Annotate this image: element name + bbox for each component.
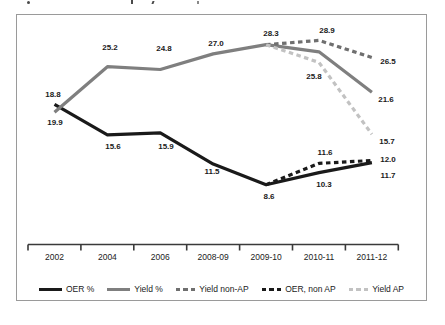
legend-label: Yield % [134, 285, 163, 294]
legend-item-yield-ap: Yield AP [349, 285, 404, 294]
data-label: 25.2 [102, 44, 118, 52]
x-axis-label: 2004 [98, 253, 117, 262]
data-label: 19.9 [47, 119, 63, 127]
legend-label: Yield non-AP [199, 285, 248, 294]
series-line-yield- [55, 45, 372, 113]
x-axis-label: 2011-12 [357, 253, 388, 262]
data-label: 18.8 [45, 91, 61, 99]
data-label: 15.6 [105, 143, 121, 151]
data-label: 15.9 [158, 143, 174, 151]
data-label: 11.6 [317, 149, 332, 157]
x-axis-label: 2002 [45, 253, 64, 262]
legend-marker [262, 288, 282, 292]
legend-item-yield-non-ap: Yield non-AP [176, 285, 249, 294]
x-axis-label: 2006 [151, 253, 170, 262]
x-axis-label: 2010-11 [304, 253, 335, 262]
legend-label: OER % [66, 285, 94, 294]
data-label: 8.6 [263, 193, 274, 201]
data-label: 21.6 [378, 96, 394, 104]
data-label: 28.9 [319, 27, 335, 35]
data-label: 15.7 [379, 138, 395, 146]
data-label: 10.3 [316, 181, 332, 189]
legend-marker [176, 288, 196, 292]
data-label: 12.0 [380, 156, 396, 164]
legend-label: OER, non AP [285, 285, 336, 294]
series-line-yield-ap [266, 45, 372, 135]
legend-marker [39, 288, 62, 292]
data-label: 28.3 [263, 30, 279, 38]
data-label: 26.5 [380, 58, 396, 66]
line-chart-plot [0, 0, 445, 325]
legend-item-yield-: Yield % [107, 285, 163, 294]
data-label: 24.8 [156, 45, 172, 53]
data-label: 11.7 [380, 172, 395, 180]
legend-label: Yield AP [372, 285, 404, 294]
legend-marker [349, 288, 369, 292]
data-label: 11.5 [204, 168, 219, 176]
data-label: 27.0 [208, 40, 224, 48]
x-axis-label: 2009-10 [250, 253, 281, 262]
x-axis-label: 2008-09 [198, 253, 229, 262]
chart-figure: 18.819.925.215.624.815.927.011.528.38.62… [0, 0, 445, 325]
data-label: 25.8 [306, 73, 322, 81]
legend-item-oer-non-ap: OER, non AP [262, 285, 336, 294]
chart-legend: OER %Yield %Yield non-APOER, non APYield… [17, 282, 426, 297]
legend-item-oer-: OER % [39, 285, 94, 294]
legend-marker [107, 288, 130, 292]
